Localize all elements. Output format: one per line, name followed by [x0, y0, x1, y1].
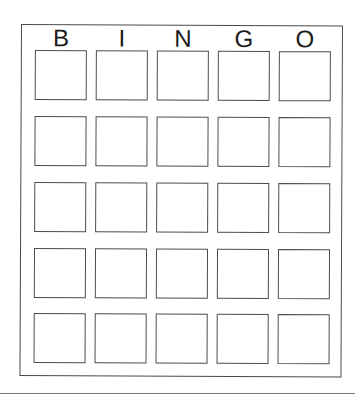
bingo-cell-r5-c4[interactable]: [217, 314, 269, 364]
bingo-cell-r2-c5[interactable]: [278, 117, 330, 167]
header-letter-n: N: [157, 26, 209, 52]
header-letter-g: G: [218, 26, 270, 52]
bingo-cell-r4-c2[interactable]: [95, 248, 147, 298]
bingo-cell-r1-c4[interactable]: [218, 51, 270, 101]
bingo-cell-r2-c1[interactable]: [34, 116, 86, 166]
bingo-cell-r1-c5[interactable]: [279, 51, 331, 101]
bingo-cell-r3-c5[interactable]: [278, 183, 330, 233]
bingo-cell-r4-c4[interactable]: [217, 249, 269, 299]
bingo-cell-r3-c1[interactable]: [34, 182, 86, 232]
bingo-cell-r3-c4[interactable]: [217, 183, 269, 233]
bingo-cell-r1-c2[interactable]: [96, 50, 148, 100]
header-letter-b: B: [35, 25, 87, 51]
bingo-cell-r2-c3[interactable]: [156, 117, 208, 167]
bingo-cell-r4-c1[interactable]: [34, 248, 86, 298]
header-letter-o: O: [279, 26, 331, 52]
bingo-cell-r4-c5[interactable]: [278, 249, 330, 299]
bingo-cell-r1-c3[interactable]: [157, 51, 209, 101]
bingo-cell-r3-c2[interactable]: [95, 182, 147, 232]
bingo-cell-r1-c1[interactable]: [35, 50, 87, 100]
bingo-cell-r3-c3[interactable]: [156, 183, 208, 233]
bingo-cell-r2-c2[interactable]: [95, 116, 147, 166]
bingo-cell-r2-c4[interactable]: [217, 117, 269, 167]
header-letter-i: I: [96, 25, 148, 51]
bottom-divider: [0, 393, 355, 394]
bingo-cell-r5-c1[interactable]: [34, 313, 86, 363]
bingo-cell-r5-c2[interactable]: [95, 313, 147, 363]
bingo-card-frame: B I N G O: [19, 24, 343, 377]
bingo-cell-r5-c5[interactable]: [278, 314, 330, 364]
bingo-cell-r4-c3[interactable]: [156, 249, 208, 299]
bingo-cell-r5-c3[interactable]: [156, 314, 208, 364]
